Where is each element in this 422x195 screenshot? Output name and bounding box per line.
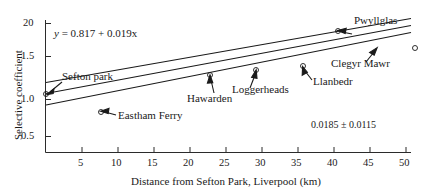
arrow-sefton-park [47, 82, 63, 95]
x-tick-label-5: 5 [78, 158, 83, 169]
site-label-hawarden: Hawarden [187, 93, 232, 104]
axis-lines [46, 20, 412, 153]
site-label-eastham-ferry: Eastham Ferry [118, 110, 182, 121]
y-tick-label-1: 0.5 [21, 131, 34, 142]
arrow-hawarden [207, 75, 214, 93]
arrow-llanbedr [302, 66, 312, 80]
regression-equation-annotation: y = 0.817 + 0.019x [54, 28, 137, 39]
equation-rhs: = 0.817 + 0.019x [59, 27, 137, 39]
site-label-pwyllglas: Pwyllglas [354, 15, 397, 26]
x-tick-label-40: 40 [327, 158, 338, 169]
y-tick-label-3: 1.5 [21, 51, 34, 62]
x-tick-label-30: 30 [255, 158, 266, 169]
site-label-llanbedr: Llanbedr [313, 76, 353, 87]
x-tick-label-25: 25 [219, 158, 230, 169]
y-axis-ticks [46, 24, 52, 137]
x-tick-label-10: 10 [111, 158, 122, 169]
x-tick-label-35: 35 [291, 158, 302, 169]
x-tick-label-50: 50 [399, 158, 410, 169]
y-tick-label-2: 1.0 [21, 94, 34, 105]
x-tick-label-15: 15 [147, 158, 158, 169]
x-axis-title: Distance from Sefton Park, Liverpool (km… [131, 176, 321, 187]
y-tick-label-4: 20 [23, 18, 34, 29]
chart-figure: Selective coefficient 20 1.5 1.0 0.5 5 1… [0, 0, 422, 195]
point-clegyr-mawr [413, 46, 418, 51]
site-label-clegyr-mawr: Clegyr Mawr [331, 58, 390, 69]
x-axis-ticks [82, 147, 406, 153]
site-label-sefton-park: Sefton park [62, 71, 113, 82]
x-tick-label-20: 20 [183, 158, 194, 169]
slope-estimate-annotation: 0.0185 ± 0.0115 [311, 120, 376, 130]
x-tick-label-45: 45 [363, 158, 374, 169]
site-label-loggerheads: Loggerheads [232, 84, 289, 95]
